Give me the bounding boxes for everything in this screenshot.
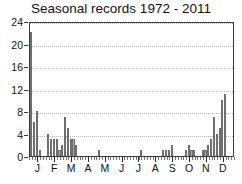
bar	[204, 150, 206, 156]
bar	[171, 145, 173, 156]
bar	[61, 145, 63, 156]
bar	[70, 139, 72, 156]
x-tick-minor	[186, 157, 187, 160]
y-tick-label: 12	[11, 85, 23, 95]
bar-series	[30, 23, 233, 156]
x-tick-label: O	[185, 162, 193, 174]
y-tick-mark	[24, 90, 28, 91]
x-tick-minor	[200, 157, 201, 160]
bar	[224, 94, 226, 156]
bar	[36, 111, 38, 156]
y-tick-label: 8	[17, 107, 23, 117]
x-tick-minor	[147, 157, 148, 160]
y-tick-label: 24	[11, 17, 23, 27]
x-tick-minor	[82, 157, 83, 160]
bar	[190, 150, 192, 156]
bar	[56, 139, 58, 156]
x-tick-minor	[192, 157, 193, 160]
y-tick-label: 4	[17, 130, 23, 140]
bar	[213, 117, 215, 156]
bar	[221, 100, 223, 156]
y-tick-label: 0	[17, 152, 23, 162]
x-tick-minor	[68, 157, 69, 160]
x-tick-minor	[234, 157, 235, 160]
x-tick-minor	[167, 157, 168, 160]
bar	[210, 139, 212, 156]
x-tick-minor	[195, 157, 196, 160]
x-tick-minor	[214, 157, 215, 160]
x-tick-minor	[183, 157, 184, 160]
x-tick-minor	[85, 157, 86, 160]
x-tick-minor	[203, 157, 204, 160]
bar	[75, 145, 77, 156]
bar	[72, 139, 74, 156]
bar	[162, 150, 164, 156]
x-tick-label: S	[169, 162, 176, 174]
x-tick-label: D	[219, 162, 227, 174]
bar	[67, 128, 69, 156]
bar	[219, 128, 221, 156]
x-tick-minor	[127, 157, 128, 160]
x-tick-minor	[102, 157, 103, 160]
x-tick-minor	[99, 157, 100, 160]
x-tick-minor	[175, 157, 176, 160]
y-tick-mark	[24, 22, 28, 23]
x-tick-minor	[51, 157, 52, 160]
x-tick-minor	[113, 157, 114, 160]
y-tick-mark	[24, 157, 28, 158]
x-tick-minor	[226, 157, 227, 160]
bar	[58, 150, 60, 156]
x-tick-minor	[80, 157, 81, 160]
bar	[33, 122, 35, 156]
x-tick-minor	[169, 157, 170, 160]
bar	[140, 150, 142, 156]
x-tick-label: N	[202, 162, 210, 174]
x-tick-minor	[130, 157, 131, 160]
x-tick-label: M	[67, 162, 76, 174]
bar	[185, 150, 187, 156]
x-tick-minor	[32, 157, 33, 160]
bar	[53, 139, 55, 156]
x-tick-minor	[209, 157, 210, 160]
x-tick-minor	[181, 157, 182, 160]
bar	[188, 145, 190, 156]
x-tick-minor	[57, 157, 58, 160]
x-tick-minor	[46, 157, 47, 160]
x-tick-minor	[63, 157, 64, 160]
x-tick-minor	[77, 157, 78, 160]
x-tick-label: M	[100, 162, 109, 174]
x-tick-label: J	[136, 162, 141, 174]
x-tick-label: J	[119, 162, 124, 174]
x-tick-minor	[212, 157, 213, 160]
bar	[30, 32, 32, 156]
y-tick-mark	[24, 67, 28, 68]
x-tick-minor	[94, 157, 95, 160]
x-tick-minor	[197, 157, 198, 160]
bar	[165, 150, 167, 156]
x-tick-minor	[116, 157, 117, 160]
bar	[47, 134, 49, 157]
bar	[193, 150, 195, 156]
y-tick-label: 20	[11, 40, 23, 50]
x-tick-minor	[29, 157, 30, 160]
y-axis: 04812162024	[0, 0, 27, 184]
x-tick-minor	[35, 157, 36, 160]
bar	[216, 134, 218, 157]
x-tick-minor	[40, 157, 41, 160]
x-tick-label: A	[152, 162, 159, 174]
y-tick-mark	[24, 135, 28, 136]
x-tick-minor	[108, 157, 109, 160]
y-tick-mark	[24, 45, 28, 46]
x-tick-minor	[144, 157, 145, 160]
x-tick-label: F	[51, 162, 57, 174]
x-tick-minor	[220, 157, 221, 160]
chart-root: Seasonal records 1972 - 2011 04812162024…	[0, 0, 242, 184]
x-tick-minor	[49, 157, 50, 160]
x-tick-label: A	[85, 162, 92, 174]
x-tick-minor	[153, 157, 154, 160]
x-tick-minor	[91, 157, 92, 160]
x-tick-minor	[110, 157, 111, 160]
bar	[168, 150, 170, 156]
x-tick-minor	[150, 157, 151, 160]
x-tick-minor	[228, 157, 229, 160]
